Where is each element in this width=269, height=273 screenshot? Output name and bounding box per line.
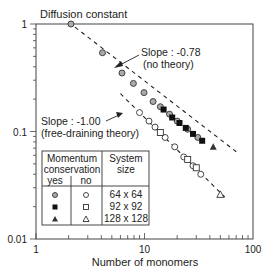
- svg-text:Slope : -1.00: Slope : -1.00: [41, 115, 101, 127]
- square-filled-marker: [199, 138, 205, 144]
- circle-open-marker: [172, 144, 178, 150]
- y-tick-label: 0.01: [8, 234, 28, 245]
- legend-size-92: 92 x 92: [110, 201, 143, 212]
- y-tick-label: 1: [21, 19, 27, 30]
- square-filled-marker: [183, 125, 189, 131]
- circle-gray-marker: [130, 80, 136, 86]
- square-open-marker: [193, 165, 199, 171]
- square-open-marker: [84, 205, 89, 210]
- square-filled-marker: [53, 205, 58, 210]
- x-tick-label: 100: [245, 244, 262, 255]
- square-filled-marker: [169, 114, 175, 120]
- svg-text:System: System: [109, 153, 142, 164]
- legend-size-128: 128 x 128: [104, 213, 148, 224]
- chart-title: Diffusion constant: [40, 8, 127, 20]
- legend-table: Momentum conservation yes no System size…: [42, 151, 149, 225]
- annotation-no-theory: Slope : -0.78 (no theory): [114, 46, 201, 70]
- square-open-marker: [185, 156, 191, 162]
- square-open-marker: [157, 129, 163, 135]
- svg-text:conservation: conservation: [44, 164, 101, 175]
- circle-open-marker: [146, 118, 152, 124]
- diffusion-chart: Diffusion constant 10.10.01 110100 Numbe…: [0, 0, 269, 273]
- circle-open-marker: [137, 110, 143, 116]
- circle-open-marker: [84, 193, 89, 198]
- x-axis-label: Number of monomers: [92, 256, 199, 268]
- circle-gray-marker: [99, 50, 105, 56]
- annotation-free-draining: Slope : -1.00 (free-draining theory): [41, 112, 139, 139]
- svg-text:no: no: [80, 175, 92, 186]
- circle-gray-marker: [141, 90, 147, 96]
- square-filled-marker: [190, 131, 196, 137]
- x-tick-label: 1: [33, 244, 39, 255]
- triangle-filled-marker: [210, 143, 217, 150]
- x-tick-label: 10: [139, 244, 151, 255]
- svg-text:size: size: [117, 164, 135, 175]
- square-filled-marker: [161, 107, 167, 113]
- circle-gray-marker: [68, 21, 74, 27]
- svg-text:(free-draining theory): (free-draining theory): [41, 127, 139, 139]
- svg-text:(no theory): (no theory): [143, 58, 194, 70]
- y-axis: 10.10.01: [8, 19, 36, 245]
- circle-gray-marker: [150, 99, 156, 105]
- x-axis: 110100: [33, 233, 262, 255]
- arrow-icon: [116, 112, 123, 118]
- circle-gray-marker: [53, 193, 58, 198]
- square-filled-marker: [176, 120, 182, 126]
- triangle-open-marker: [217, 191, 224, 198]
- svg-text:yes: yes: [47, 175, 63, 186]
- arrow-icon: [114, 61, 123, 68]
- circle-open-marker: [198, 171, 204, 177]
- y-tick-label: 0.1: [13, 127, 27, 138]
- svg-text:Momentum: Momentum: [47, 153, 97, 164]
- svg-text:Slope : -0.78: Slope : -0.78: [141, 46, 201, 58]
- circle-gray-marker: [119, 70, 125, 76]
- legend-size-64: 64 x 64: [110, 189, 143, 200]
